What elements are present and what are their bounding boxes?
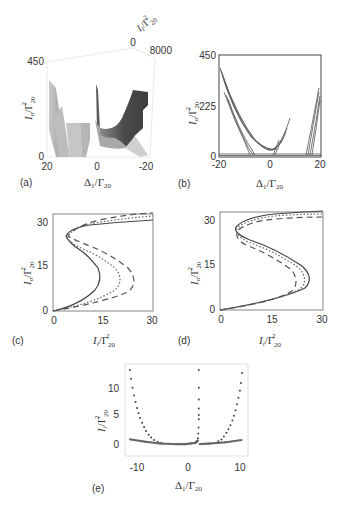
b-ytick-450: 450 [199, 50, 216, 61]
d-curves [220, 211, 323, 310]
b-ylabel: Io/Γ202 [184, 101, 201, 126]
c-solid-curve [53, 220, 153, 311]
d-dashed-curve [220, 217, 323, 310]
c-dotted-curve [53, 216, 153, 311]
e-panel-label: (e) [92, 483, 104, 494]
b-xtick-0: 0 [267, 159, 273, 170]
a-panel-label: (a) [20, 177, 32, 188]
e-ytick-5: 5 [113, 409, 119, 420]
d-xlabel: Ii/Γ202 [258, 332, 282, 349]
d-ytick-0: 0 [209, 304, 215, 315]
c-xtick-30: 30 [146, 315, 158, 326]
a-xtick-neg20: -20 [139, 161, 154, 172]
c-xtick-0: 0 [51, 315, 57, 326]
a-xtick-20: 20 [41, 161, 53, 172]
c-ytick-0: 0 [42, 305, 48, 316]
b-xlabel: Δ1/Γ20 [256, 177, 284, 191]
b-xtick-neg20: -20 [212, 159, 227, 170]
panel-a: 450 0 20 0 -20 0 8000 Ii/Γ202 Io/Γ202 (a… [20, 10, 172, 190]
svg-text:Ii/Γ202: Ii/Γ202 [132, 10, 159, 37]
e-xtick-0: 0 [185, 462, 191, 473]
d-solid-curve [220, 211, 323, 310]
a-xlabel: Δ1/Γ20 [84, 176, 112, 190]
e-ytick-0: 0 [113, 439, 119, 450]
c-ylabel: Io/Γ202 [19, 261, 36, 286]
a-xtick-0: 0 [94, 161, 100, 172]
d-xtick-30: 30 [316, 314, 328, 325]
panel-c: 30 15 0 0 15 30 Io/Γ202 (c) Ii/Γ202 [12, 213, 158, 349]
svg-text:Ii/Γ202: Ii/Γ202 [93, 409, 110, 433]
a-ztick-8000: 8000 [150, 45, 173, 56]
b-ytick-225: 225 [199, 101, 216, 112]
c-frame [53, 214, 153, 311]
b-curves [219, 68, 321, 156]
a-ytick-450: 450 [27, 56, 44, 67]
panel-e: 10 5 0 -10 0 10 Ii/Γ202 (e) Δ1/Γ20 [92, 364, 248, 494]
d-ylabel: Io/Γ202 [186, 261, 203, 286]
d-frame [220, 212, 323, 310]
panel-b: 450 225 0 -20 0 20 Io/Γ202 (b) Δ1/Γ20 [178, 50, 326, 191]
panel-d: 30 15 0 0 15 30 Io/Γ202 (d) Ii/Γ202 [178, 211, 328, 349]
a-zlabel: Ii/Γ202 [132, 10, 159, 37]
d-xtick-15: 15 [266, 314, 278, 325]
svg-text:Io/Γ202: Io/Γ202 [19, 261, 36, 286]
c-ytick-15: 15 [37, 260, 49, 271]
svg-text:Io/Γ202: Io/Γ202 [20, 96, 37, 121]
c-dashed-curve [53, 213, 153, 311]
d-xtick-0: 0 [218, 314, 224, 325]
a-ztick-0: 0 [130, 37, 136, 48]
e-ylabel: Ii/Γ202 [93, 409, 110, 433]
c-xlabel: Ii/Γ202 [92, 332, 116, 349]
d-ytick-15: 15 [204, 259, 216, 270]
e-xtick-neg10: -10 [130, 462, 145, 473]
svg-text:Io/Γ202: Io/Γ202 [184, 101, 201, 126]
c-xtick-15: 15 [97, 315, 109, 326]
b-panel-label: (b) [178, 178, 190, 189]
svg-text:Io/Γ202: Io/Γ202 [186, 261, 203, 286]
e-xlabel: Δ1/Γ20 [175, 479, 203, 493]
e-xtick-10: 10 [234, 462, 246, 473]
figure: 450 0 20 0 -20 0 8000 Ii/Γ202 Io/Γ202 (a… [0, 0, 343, 506]
d-panel-label: (d) [178, 335, 190, 346]
c-curves [53, 213, 153, 311]
a-ylabel: Io/Γ202 [20, 96, 37, 121]
d-ytick-30: 30 [204, 215, 216, 226]
e-ytick-10: 10 [108, 383, 120, 394]
e-scatter-points [129, 369, 243, 445]
c-ytick-30: 30 [37, 217, 49, 228]
b-xtick-20: 20 [314, 159, 326, 170]
c-panel-label: (c) [12, 335, 24, 346]
